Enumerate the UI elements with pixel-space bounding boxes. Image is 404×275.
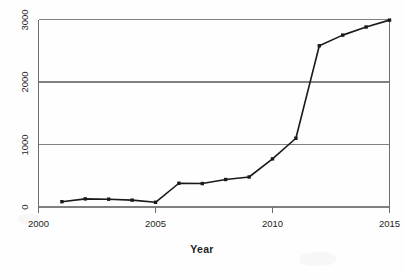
y-tick-label-2000: 2000 [19,67,31,97]
data-point-2005 [154,201,157,204]
x-tick-label-2010: 2010 [253,218,293,229]
data-point-2001 [60,200,63,203]
chart-figure: 0100020003000 2000200520102015 Year [0,0,404,275]
x-axis-title: Year [0,243,404,255]
data-point-markers [60,18,391,204]
x-tick-label-2000: 2000 [19,218,59,229]
data-point-2006 [177,182,180,185]
data-point-2014 [364,25,367,28]
x-tick-label-2005: 2005 [136,218,176,229]
y-tick-label-3000: 3000 [19,5,31,35]
y-tick-label-1000: 1000 [19,130,31,160]
data-point-2008 [224,178,227,181]
data-point-2011 [294,137,297,140]
data-point-2015 [388,18,391,21]
data-point-2003 [107,197,110,200]
data-point-2009 [247,175,250,178]
data-point-2007 [201,182,204,185]
data-point-2004 [130,198,133,201]
data-point-2002 [84,197,87,200]
axis-lines [39,20,390,208]
data-point-2012 [318,44,321,47]
data-point-2010 [271,157,274,160]
data-point-2013 [341,33,344,36]
data-series-line [62,20,390,202]
plot-area [0,0,404,275]
x-tick-label-2015: 2015 [370,218,404,229]
gridlines [39,20,390,208]
